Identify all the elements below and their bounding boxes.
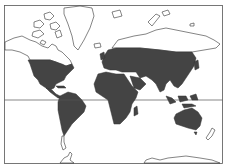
antarctica-outline: [60, 152, 220, 163]
world-distribution-map: [0, 0, 227, 167]
siberian-islands-outline: [162, 10, 194, 26]
svalbard-outline: [112, 10, 122, 18]
greenland-outline: [64, 6, 94, 50]
range-japan: [194, 60, 199, 70]
range-australia: [174, 108, 202, 130]
range-southeast-asia: [166, 94, 198, 108]
range-caribbean: [56, 86, 66, 88]
range-south-america: [58, 92, 86, 136]
range-tasmania: [194, 132, 197, 135]
new-zealand-outline: [206, 128, 215, 140]
range-madagascar: [134, 106, 138, 116]
patagonia-outline: [61, 136, 66, 150]
iceland-outline: [94, 43, 101, 48]
arctic-islands-outline: [32, 12, 62, 45]
novaya-zemlya-outline: [148, 14, 160, 26]
